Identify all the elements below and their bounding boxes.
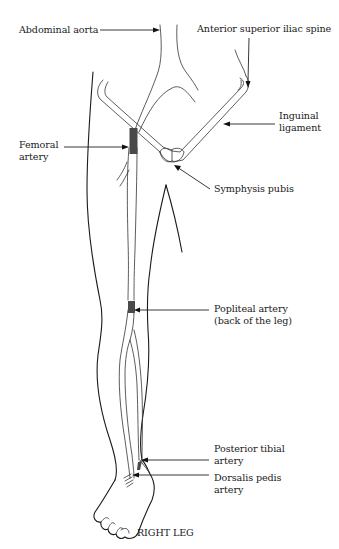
label-symphysis-pubis: Symphysis pubis — [214, 183, 294, 195]
label-femoral-artery: Femoral artery — [19, 139, 58, 162]
label-inguinal-line2: ligament — [279, 122, 321, 134]
posterior-tibial-pulse-marker — [137, 461, 142, 470]
inguinal-ligament-shape — [98, 50, 249, 162]
label-popliteal-line2: (back of the leg) — [214, 315, 292, 327]
label-posterior-tibial-artery: Posterior tibial artery — [214, 443, 285, 466]
label-posterior-tibial-line2: artery — [214, 455, 285, 467]
popliteal-pulse-marker — [128, 301, 135, 313]
label-posterior-tibial-line1: Posterior tibial — [214, 443, 285, 455]
label-femoral-line2: artery — [19, 151, 58, 163]
dorsalis-pedis-pulse-marker — [124, 474, 133, 487]
label-abdominal-aorta: Abdominal aorta — [19, 24, 98, 36]
leg-artery-diagram — [0, 0, 339, 549]
label-femoral-line1: Femoral — [19, 139, 58, 151]
figure-caption: RIGHT LEG — [137, 527, 194, 539]
label-anterior-superior-iliac-spine: Anterior superior iliac spine — [197, 23, 331, 35]
label-dorsalis-pedis-artery: Dorsalis pedis artery — [214, 472, 281, 495]
label-popliteal-line1: Popliteal artery — [214, 303, 292, 315]
label-inguinal-line1: Inguinal — [279, 110, 321, 122]
label-inguinal-ligament: Inguinal ligament — [279, 110, 321, 133]
label-dorsalis-line2: artery — [214, 484, 281, 496]
abdominal-aorta-shape — [135, 25, 198, 132]
femoral-pulse-marker — [130, 128, 138, 154]
label-dorsalis-line1: Dorsalis pedis — [214, 472, 281, 484]
label-popliteal-artery: Popliteal artery (back of the leg) — [214, 303, 292, 326]
